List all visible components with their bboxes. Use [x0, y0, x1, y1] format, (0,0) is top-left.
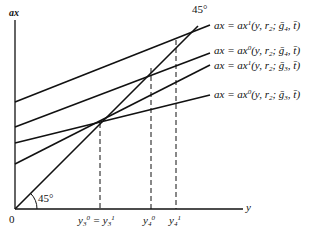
- curve-label-ax0-g3: ax = ax0(y, r2; ḡ3, t̄): [214, 89, 300, 102]
- tick-label-y4-1: y41: [169, 215, 181, 228]
- line-ax0-g3: [15, 95, 210, 143]
- curve-label-ax1-g3: ax = ax1(y, r2; ḡ3, t̄): [214, 60, 300, 73]
- curve-label-ax0-g4: ax = ax0(y, r2; ḡ4, t̄): [214, 45, 300, 58]
- curve-label-ax1-g4: ax = ax1(y, r2; ḡ4, t̄): [214, 20, 300, 33]
- x-axis-label: y: [246, 202, 251, 213]
- angle-label-45-bottom: 45°: [38, 193, 53, 204]
- angle-label-45-top: 45°: [192, 4, 207, 15]
- tick-label-y4-0: y40: [143, 215, 155, 228]
- y-axis-label: ax: [9, 8, 19, 18]
- tick-label-y3: y30 = y31: [78, 215, 115, 228]
- origin-label: 0: [9, 214, 15, 225]
- line-ax1-g3: [15, 65, 210, 164]
- angle-arc-45: [31, 193, 37, 209]
